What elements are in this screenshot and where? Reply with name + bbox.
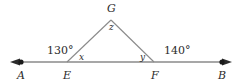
point-label-E: E: [63, 70, 71, 81]
point-label-F: F: [151, 70, 159, 81]
angle-label-y: y: [140, 53, 145, 62]
angle-label-x: x: [79, 53, 84, 62]
angle-label-z: z: [109, 23, 114, 32]
point-label-A: A: [17, 70, 25, 81]
segment-GF: [111, 20, 154, 62]
point-dot-B: [219, 59, 224, 64]
point-dot-A: [18, 59, 23, 64]
angle-label-130: 130°: [47, 45, 74, 56]
line-AB: [10, 59, 232, 66]
point-label-G: G: [107, 3, 116, 14]
segment-EG: [67, 20, 111, 62]
angle-label-140: 140°: [164, 45, 191, 56]
point-label-B: B: [218, 70, 226, 81]
figure-canvas: [0, 0, 241, 84]
geometry-figure: A E F B G 130° x z y 140°: [0, 0, 241, 84]
